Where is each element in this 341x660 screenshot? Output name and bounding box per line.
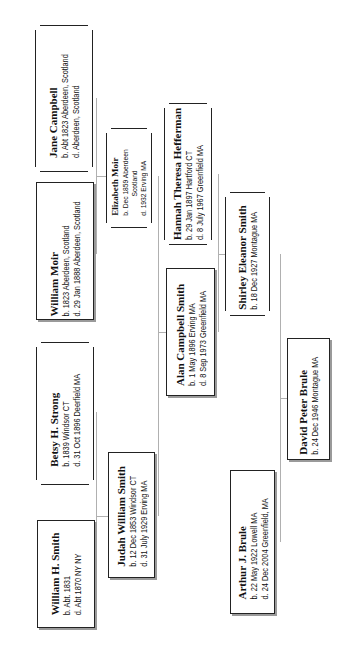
person-name: David Peter Brule (297, 343, 310, 454)
person-details: William H. Smith b. Abt. 1831 d. Abt 187… (49, 533, 83, 616)
birth-info: b. 18 Dec 1927 Montague MA (249, 212, 260, 310)
connector-elizabeth (96, 176, 106, 177)
birth-info: b. 29 Jan 1897 Hartford CT (184, 124, 195, 240)
birth-info: b. 12 Dec 1853 Windsor CT (128, 476, 139, 567)
person-name: William Moir (48, 186, 61, 317)
person-name: Hannah Theresa Hefferman (171, 108, 184, 240)
person-box-william-smith[interactable]: William H. Smith b. Abt. 1831 d. Abt 187… (37, 520, 95, 628)
death-info: d. Aberdeen, Scotland (71, 54, 82, 158)
person-box-betsy-strong[interactable]: Betsy H. Strong b. 1839 Windsor CT d. 31… (36, 342, 94, 485)
person-details: Shirley Eleanor Smith b. 18 Dec 1927 Mon… (236, 198, 260, 309)
person-box-elizabeth-moir[interactable]: Elizabeth Moir b. Dec 1859 Aberdeen Scot… (106, 128, 152, 228)
connector-judah (96, 516, 108, 517)
person-box-jane-campbell[interactable]: Jane Campbell b. Abt 1823 Aberdeen, Scot… (35, 25, 93, 172)
person-details: Betsy H. Strong b. 1839 Windsor CT d. 31… (48, 361, 82, 467)
connector-alan-hannah (218, 174, 219, 332)
person-box-hannah-hefferman[interactable]: Hannah Theresa Hefferman b. 29 Jan 1897 … (164, 103, 212, 245)
person-details: David Peter Brule b. 24 Dec 1946 Montagu… (297, 343, 321, 454)
birth-info: b. 1839 Windsor CT (61, 373, 72, 466)
death-info: d. Abt 1870 NY NY (73, 543, 84, 616)
person-name: Betsy H. Strong (48, 361, 61, 467)
death-info: d. 1932 Erving MA (139, 149, 148, 216)
death-info: d. 31 July 1929 Erving MA (138, 476, 149, 567)
birth-info: b. 24 Dec 1946 Montague MA (310, 357, 321, 455)
person-details: Judah William Smith b. 12 Dec 1853 Winds… (115, 463, 149, 566)
person-box-shirley-smith[interactable]: Shirley Eleanor Smith b. 18 Dec 1927 Mon… (225, 192, 270, 316)
birth-info: b. Abt 1823 Aberdeen, Scotland (60, 54, 71, 158)
birth-info: b. Abt. 1831 (62, 543, 73, 616)
person-box-david-brule[interactable]: David Peter Brule b. 24 Dec 1946 Montagu… (287, 338, 330, 460)
death-info: d. 24 Dec 2004 Greenfield, MA (259, 498, 270, 599)
person-name: Judah William Smith (115, 463, 128, 566)
person-name: Alan Campbell Smith (174, 278, 187, 386)
birth-info: b. 22 May 1922 Lowell MA (249, 498, 260, 599)
death-info: d. 31 Oct 1896 Deerfield MA (72, 373, 83, 466)
death-info: d. 29 Jan 1888 Aberdeen, Scotland (72, 201, 83, 316)
person-details: Arthur J. Brule b. 22 May 1922 Lowell MA… (236, 485, 270, 600)
person-details: Alan Campbell Smith b. 1 May 1896 Erving… (174, 278, 208, 386)
birth-info: b. Dec 1859 Aberdeen (121, 149, 130, 216)
person-name: Elizabeth Moir (110, 140, 121, 216)
person-name: Shirley Eleanor Smith (236, 198, 249, 309)
person-name: Arthur J. Brule (236, 485, 249, 600)
connector-judah-elizabeth (158, 176, 159, 516)
birth-info: b. 1 May 1896 Erving MA (187, 291, 198, 386)
connector-shirley (218, 254, 225, 255)
birth-place-continued: Scotland (130, 149, 139, 216)
person-box-william-moir[interactable]: William Moir b. 1823 Aberdeen, Scotland … (36, 182, 94, 320)
person-box-judah-smith[interactable]: Judah William Smith b. 12 Dec 1853 Winds… (108, 452, 155, 578)
person-name: Jane Campbell (47, 40, 60, 158)
birth-info: b. 1823 Aberdeen, Scotland (61, 201, 72, 316)
person-name: William H. Smith (49, 533, 62, 616)
person-box-arthur-brule[interactable]: Arthur J. Brule b. 22 May 1922 Lowell MA… (230, 470, 275, 614)
person-details: Hannah Theresa Hefferman b. 29 Jan 1897 … (171, 108, 205, 240)
death-info: d. 8 July 1967 Greenfield MA (195, 124, 206, 240)
death-info: d. 8 Sep 1973 Greenfield MA (197, 291, 208, 386)
person-details: William Moir b. 1823 Aberdeen, Scotland … (48, 186, 82, 317)
person-details: Jane Campbell b. Abt 1823 Aberdeen, Scot… (47, 40, 81, 158)
person-box-alan-smith[interactable]: Alan Campbell Smith b. 1 May 1896 Erving… (166, 268, 215, 396)
connector-david (280, 398, 287, 399)
connector-smith-strong (96, 412, 97, 580)
person-details: Elizabeth Moir b. Dec 1859 Aberdeen Scot… (110, 140, 148, 216)
connector-alan (158, 332, 166, 333)
